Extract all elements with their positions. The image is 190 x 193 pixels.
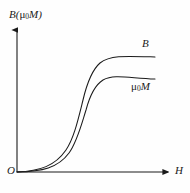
x-axis-label: H (175, 165, 183, 176)
plot-area (0, 0, 190, 193)
curve-label-tail: M (141, 80, 150, 92)
curve-b (17, 56, 155, 172)
magnetization-curve-figure: B(μ0M) H O B μ0M (0, 0, 190, 193)
y-axis-label: B(μ0M) (9, 9, 42, 21)
curve-label-b: B (142, 38, 149, 49)
y-axis-label-main: B( (9, 8, 19, 20)
origin-label: O (7, 165, 15, 176)
curve-label-mu0m: μ0M (131, 81, 150, 93)
y-axis-label-tail: M) (29, 8, 42, 20)
